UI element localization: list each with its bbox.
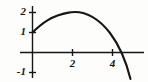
chart-figure: 2 1 -1 2 4 xyxy=(0,0,148,82)
y-tick-label-1: 1 xyxy=(12,26,26,37)
x-tick-label-2: 2 xyxy=(65,58,80,69)
y-tick-label-minus-1: -1 xyxy=(6,66,26,77)
y-tick-label-2: 2 xyxy=(12,6,26,17)
x-tick-label-4: 4 xyxy=(105,58,120,69)
